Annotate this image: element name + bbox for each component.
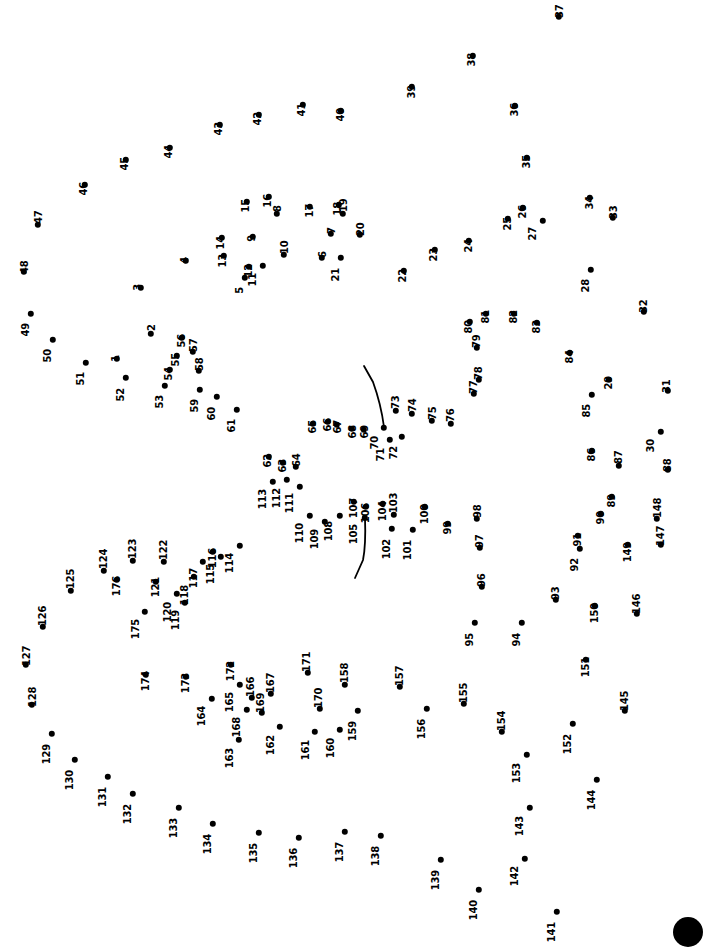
dot-label: 14 <box>216 236 226 250</box>
dot-label: 57 <box>189 338 199 352</box>
dot-label: 174 <box>141 671 151 691</box>
dot-label: 142 <box>510 866 520 886</box>
dot-label: 128 <box>28 687 38 707</box>
puzzle-dot <box>589 392 595 398</box>
dot-label: 86 <box>587 448 597 462</box>
dot-label: 81 <box>481 310 491 324</box>
dot-label: 10 <box>280 240 290 254</box>
dot-label: 75 <box>428 406 438 420</box>
dot-label: 111 <box>285 493 295 513</box>
dot-label: 146 <box>632 594 642 614</box>
dot-label: 144 <box>587 790 597 810</box>
dot-label: 158 <box>340 663 350 683</box>
puzzle-dot <box>389 526 395 532</box>
dot-label: 56 <box>177 334 187 348</box>
dot-label: 23 <box>429 248 439 262</box>
puzzle-dot <box>658 429 664 435</box>
dot-label: 59 <box>190 399 200 413</box>
dot-label: 7 <box>327 227 337 234</box>
dot-label: 168 <box>232 717 242 737</box>
dot-label: 61 <box>227 419 237 433</box>
dot-label: 121 <box>151 577 161 597</box>
dot-label: 101 <box>403 540 413 560</box>
dot-label: 143 <box>515 816 525 836</box>
dot-label: 45 <box>120 157 130 171</box>
puzzle-dot <box>72 757 78 763</box>
dot-label: 170 <box>314 688 324 708</box>
dot-label: 162 <box>266 735 276 755</box>
dot-label: 30 <box>646 439 656 453</box>
puzzle-dot <box>237 543 243 549</box>
dot-label: 125 <box>66 569 76 589</box>
dot-label: 74 <box>408 398 418 412</box>
dot-label: 173 <box>181 673 191 693</box>
dot-label: 131 <box>98 787 108 807</box>
dot-label: 159 <box>348 721 358 741</box>
dot-label: 129 <box>42 744 52 764</box>
dot-label: 96 <box>477 573 487 587</box>
dot-label: 165 <box>225 692 235 712</box>
puzzle-dot <box>554 909 560 915</box>
dot-label: 21 <box>331 268 341 282</box>
dot-label: 106 <box>361 503 371 523</box>
dot-label: 20 <box>356 222 366 236</box>
dot-label: 152 <box>563 734 573 754</box>
dot-label: 47 <box>34 210 44 224</box>
dot-label: 161 <box>301 740 311 760</box>
dot-label: 98 <box>473 504 483 518</box>
dot-label: 26 <box>518 205 528 219</box>
dot-label: 105 <box>349 524 359 544</box>
dot-label: 137 <box>335 842 345 862</box>
dot-label: 150 <box>590 603 600 623</box>
dot-label: 55 <box>171 353 181 367</box>
dot-label: 94 <box>512 633 522 647</box>
dot-label: 9 <box>247 235 257 242</box>
dot-label: 48 <box>20 260 30 274</box>
dot-label: 87 <box>614 450 624 464</box>
puzzle-dot <box>312 729 318 735</box>
dot-label: 123 <box>128 539 138 559</box>
page-corner-blob <box>673 917 703 947</box>
dot-label: 13 <box>218 254 228 268</box>
dot-label: 85 <box>582 404 592 418</box>
puzzle-dot <box>130 791 136 797</box>
dot-label: 147 <box>656 526 666 546</box>
dot-label: 62 <box>263 454 273 468</box>
puzzle-dot <box>277 724 283 730</box>
dot-label: 138 <box>371 846 381 866</box>
dot-label: 38 <box>467 53 477 67</box>
dot-label: 52 <box>116 388 126 402</box>
upper-guide-stroke <box>364 366 384 427</box>
dot-label: 22 <box>398 269 408 283</box>
dot-label: 63 <box>278 459 288 473</box>
dot-label: 60 <box>207 407 217 421</box>
dot-label: 15 <box>241 199 251 213</box>
dot-label: 104 <box>378 501 388 521</box>
dot-label: 54 <box>164 367 174 381</box>
dot-label: 95 <box>465 633 475 647</box>
puzzle-dot <box>256 830 262 836</box>
puzzle-dot <box>476 887 482 893</box>
puzzle-dot <box>244 707 250 713</box>
dot-label: 164 <box>197 706 207 726</box>
dot-label: 139 <box>431 870 441 890</box>
puzzle-dot <box>237 682 243 688</box>
dot-label: 17 <box>305 204 315 218</box>
dot-label: 35 <box>522 155 532 169</box>
dot-label: 133 <box>169 818 179 838</box>
dot-label: 27 <box>528 227 538 241</box>
puzzle-dot <box>214 394 220 400</box>
dot-label: 28 <box>581 279 591 293</box>
dot-label: 90 <box>596 511 606 525</box>
dot-label: 140 <box>469 900 479 920</box>
connect-the-dots-canvas: 1234567891011121314151617181920212223242… <box>0 0 705 949</box>
dot-label: 97 <box>475 534 485 548</box>
dot-label: 51 <box>76 372 86 386</box>
puzzle-dot <box>28 311 34 317</box>
puzzle-dot <box>527 805 533 811</box>
dot-label: 135 <box>249 843 259 863</box>
dot-label: 171 <box>302 652 312 672</box>
dot-label: 102 <box>382 539 392 559</box>
dot-label: 72 <box>389 446 399 460</box>
dot-label: 112 <box>272 488 282 508</box>
